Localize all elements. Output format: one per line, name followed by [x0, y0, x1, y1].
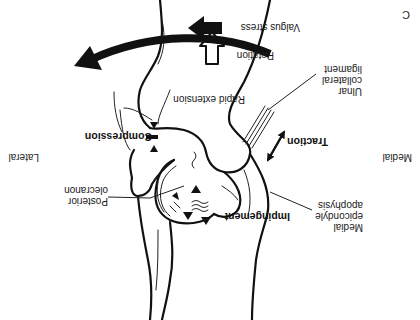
side-label-medial: Medial — [383, 152, 412, 163]
diagram-svg: C Medial Lateral — [0, 0, 420, 320]
impingement-markers — [170, 185, 211, 225]
label-posterior-olecranon-line1: Posterior — [67, 196, 108, 207]
label-posterior-olecranon-line2: olecranon — [64, 185, 108, 196]
label-medial-epicondyle-line2: epicondyle — [315, 211, 363, 222]
label-ucl-line1: Ulnar — [337, 86, 362, 97]
label-medial-epicondyle-line1: Medial — [334, 222, 363, 233]
label-rotation: Rotation — [237, 50, 274, 61]
label-compression: Compression — [85, 131, 152, 143]
side-label-lateral: Lateral — [8, 152, 39, 163]
panel-letter: C — [402, 9, 410, 21]
label-ucl-line3: ligament — [324, 64, 362, 75]
label-traction: Traction — [287, 136, 328, 148]
label-impingement: Impingement — [224, 211, 290, 223]
label-ucl-line2: collateral — [322, 75, 362, 86]
rotated-figure: C Medial Lateral — [8, 0, 412, 320]
label-rapid-extension: Rapid extension — [173, 94, 245, 105]
medial-epicondyle — [214, 172, 240, 217]
elbow-valgus-diagram: C Medial Lateral — [0, 0, 420, 320]
medial-epicondyle-leader — [270, 192, 312, 210]
label-valgus-stress: Valgus stress — [241, 22, 300, 33]
traction-arrow-up — [268, 132, 284, 160]
label-medial-epicondyle-line3: apophysis — [318, 200, 363, 211]
forearm-bones — [114, 92, 268, 320]
